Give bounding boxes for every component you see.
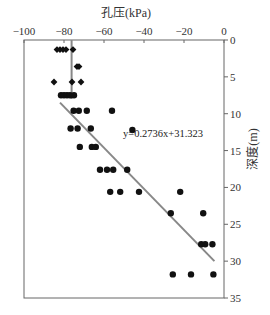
circle-marker [84,108,90,114]
y-tick-label: 0 [230,34,236,46]
circle-marker [67,125,73,131]
x-tick-label: −80 [55,25,73,37]
circle-marker [71,92,77,98]
x-tick-label: −40 [135,25,153,37]
y-tick-label: 35 [230,292,242,304]
circle-marker [188,271,194,277]
circle-marker [168,210,174,216]
regression-equation: y=0.2736x+31.323 [123,128,203,139]
circle-marker [76,108,82,114]
circle-marker [74,125,80,131]
circle-marker [124,167,130,173]
circle-marker [170,271,176,277]
circle-marker [107,189,113,195]
pore-pressure-depth-chart: −100−80−60−40−20005101520253035 孔压(kPa)深… [0,0,270,315]
data-points [51,46,217,277]
circle-marker [88,125,94,131]
circle-marker [117,189,123,195]
circle-marker [136,189,142,195]
circle-marker [97,167,103,173]
circle-marker [200,210,206,216]
diamond-marker [78,79,85,86]
y-tick-label: 5 [230,71,236,83]
diamond-marker [69,79,76,86]
y-tick-label: 15 [230,145,242,157]
y-tick-label: 20 [230,181,242,193]
y-tick-label: 30 [230,255,242,267]
x-axis-title: 孔压(kPa) [101,6,151,20]
circle-marker [209,241,215,247]
y-tick-label: 10 [230,108,242,120]
x-tick-label: 0 [221,25,227,37]
reference-lines [60,40,214,261]
diamond-marker [51,79,58,86]
regression-line [60,103,214,261]
y-tick-label: 25 [230,218,242,230]
circle-marker [177,189,183,195]
y-axis-title: 深度(m) [245,128,260,169]
x-tick-label: −20 [175,25,193,37]
circle-marker [77,144,83,150]
axes: −100−80−60−40−20005101520253035 [13,25,242,304]
circle-marker [202,241,208,247]
circle-marker [93,144,99,150]
circle-marker [110,167,116,173]
x-tick-label: −60 [95,25,113,37]
circle-marker [109,108,115,114]
x-tick-label: −100 [13,25,36,37]
circle-marker [104,167,110,173]
circle-marker [210,271,216,277]
